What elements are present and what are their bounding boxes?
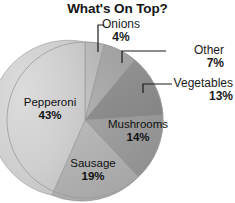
slice-label-pepperoni-name: Pepperoni [16,96,84,109]
slice-label-mushrooms: Mushrooms 14% [101,118,175,143]
callout-onions-name: Onions [102,18,140,31]
callout-vegetables: Vegetables 13% [153,77,233,102]
slice-label-pepperoni: Pepperoni 43% [16,96,84,121]
slice-label-mushrooms-pct: 14% [101,131,175,144]
slice-label-sausage: Sausage 19% [62,157,124,182]
callout-onions-pct: 4% [102,31,140,44]
callout-other-pct: 7% [150,57,224,70]
callout-other: Other 7% [150,44,224,69]
callout-onions: Onions 4% [102,18,140,43]
slice-label-sausage-name: Sausage [62,157,124,170]
callout-vegetables-name: Vegetables [153,77,233,90]
pie-chart-figure: What's On Top? [0,0,235,203]
slice-label-mushrooms-name: Mushrooms [101,118,175,131]
callout-other-name: Other [150,44,224,57]
slice-label-sausage-pct: 19% [62,170,124,183]
callout-vegetables-pct: 13% [153,90,233,103]
slice-label-pepperoni-pct: 43% [16,109,84,122]
